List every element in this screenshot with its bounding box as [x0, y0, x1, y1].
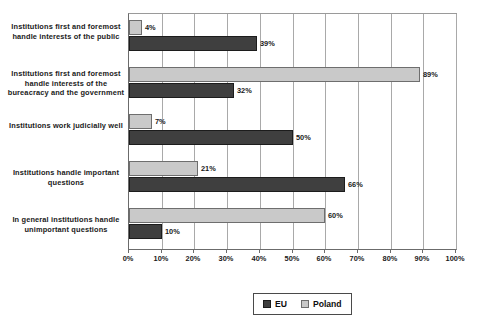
chart-legend: EU Poland: [253, 293, 352, 315]
bar-value-label: 32%: [237, 83, 252, 98]
category-label: Institutions work judicially well: [6, 121, 126, 131]
value-axis: 0%10%20%30%40%50%60%70%80%90%100%: [128, 249, 457, 271]
bar-group: 7%50%: [129, 108, 456, 155]
category-label: Institutions first and foremost handle i…: [6, 69, 126, 98]
bar-poland: [129, 20, 142, 35]
category-label: In general institutions handle unimporta…: [6, 215, 126, 234]
legend-label: Poland: [313, 299, 342, 309]
bar-value-label: 66%: [348, 177, 363, 192]
legend-swatch-icon: [263, 300, 271, 308]
axis-tick: [455, 249, 456, 253]
plot-area: 4%39%89%32%7%50%21%66%60%10%: [128, 13, 457, 250]
axis-tick: [259, 249, 260, 253]
axis-tick: [357, 249, 358, 253]
bar-group: 4%39%: [129, 14, 456, 61]
axis-tick-label: 100%: [435, 254, 475, 263]
bar-poland: [129, 161, 198, 176]
category-label: Institutions handle important questions: [6, 168, 126, 187]
bar-eu: [129, 83, 234, 98]
bar-value-label: 21%: [201, 161, 216, 176]
bar-poland: [129, 114, 152, 129]
category-label: Institutions first and foremost handle i…: [6, 22, 126, 41]
axis-tick: [324, 249, 325, 253]
bar-eu: [129, 177, 345, 192]
bar-eu: [129, 224, 162, 239]
bar-eu: [129, 36, 257, 51]
bar-group: 60%10%: [129, 202, 456, 249]
bar-value-label: 39%: [260, 36, 275, 51]
legend-entry-eu: EU: [263, 299, 287, 309]
bar-group: 21%66%: [129, 155, 456, 202]
axis-tick: [161, 249, 162, 253]
legend-entry-poland: Poland: [301, 299, 342, 309]
legend-swatch-icon: [301, 300, 309, 308]
bar-value-label: 10%: [165, 224, 180, 239]
bar-value-label: 4%: [145, 20, 156, 35]
axis-tick: [193, 249, 194, 253]
axis-tick: [292, 249, 293, 253]
bar-value-label: 60%: [328, 208, 343, 223]
bar-value-label: 7%: [155, 114, 166, 129]
axis-tick: [390, 249, 391, 253]
legend-label: EU: [275, 299, 287, 309]
axis-tick: [422, 249, 423, 253]
bar-group: 89%32%: [129, 61, 456, 108]
axis-tick: [128, 249, 129, 253]
bar-value-label: 50%: [296, 130, 311, 145]
bar-value-label: 89%: [423, 67, 438, 82]
axis-tick: [226, 249, 227, 253]
bar-poland: [129, 208, 325, 223]
bar-poland: [129, 67, 420, 82]
category-axis: Institutions first and foremost handle i…: [6, 13, 126, 248]
horizontal-bar-chart: Institutions first and foremost handle i…: [0, 0, 478, 328]
gridline: [456, 14, 457, 249]
bar-eu: [129, 130, 293, 145]
